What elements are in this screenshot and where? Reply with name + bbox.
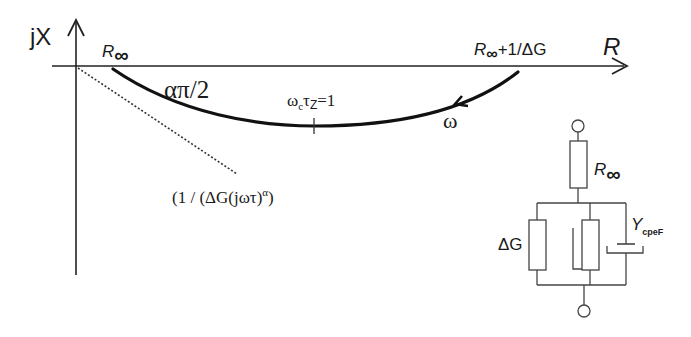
- arc-start-label-sub: ∞: [114, 44, 128, 66]
- arc-end-label-main: R: [474, 40, 486, 59]
- peak-label: ωcτZ=1: [287, 91, 335, 112]
- arc-end-label-suffix: +1/ΔG: [498, 40, 547, 59]
- cpe-label-sub: cpeF: [642, 227, 664, 237]
- series-resistor-label-main: R: [594, 160, 606, 179]
- cole-cole-diagram: jX R R∞ R∞+1/ΔG απ/2 ωcτZ=1 ω (1 / (ΔG(j…: [0, 0, 691, 337]
- asymptote-label-main: (1 / (ΔG(jωτ): [172, 188, 262, 207]
- arc-start-label-main: R: [102, 42, 114, 61]
- cpe-label: YcpeF: [631, 215, 664, 237]
- peak-label-tau-sub: Z: [310, 98, 317, 112]
- cpe-element-bracket: [573, 228, 582, 269]
- omega-label: ω: [443, 108, 457, 133]
- series-resistor-label: R∞: [594, 160, 621, 185]
- angle-label: απ/2: [164, 76, 209, 103]
- asymptote-label: (1 / (ΔG(jωτ)α): [172, 186, 274, 207]
- bottom-terminal: [578, 305, 590, 317]
- cpe-element: [582, 220, 599, 270]
- delta-g-resistor: [529, 220, 546, 270]
- arc-end-label-sub: ∞: [486, 45, 497, 62]
- asymptote-line: [78, 68, 237, 174]
- delta-g-label: ΔG: [498, 235, 523, 254]
- y-axis-label: jX: [29, 23, 51, 50]
- arc-end-label: R∞+1/ΔG: [474, 40, 546, 62]
- asymptote-label-close: ): [268, 188, 274, 207]
- series-resistor-label-sub: ∞: [606, 163, 620, 185]
- top-terminal: [572, 120, 584, 132]
- equivalent-circuit: R∞ ΔG YcpeF: [498, 120, 664, 317]
- peak-label-value: =1: [317, 91, 335, 110]
- cpe-cap-plate-bottom: [607, 246, 643, 253]
- peak-label-omega: ω: [287, 91, 298, 110]
- arc-start-label: R∞: [102, 42, 129, 66]
- x-axis-label: R: [603, 33, 620, 60]
- series-resistor: [570, 141, 587, 188]
